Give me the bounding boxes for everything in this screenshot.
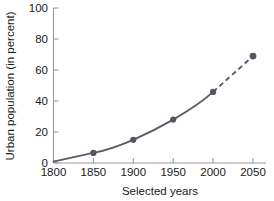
x-tick-label-2050: 2050 [240,166,266,178]
x-axis-title: Selected years [122,185,198,197]
x-tick-label-1900: 1900 [121,166,147,178]
x-tick-label-1850: 1850 [81,166,107,178]
data-point-markers [90,53,256,156]
data-point-1900 [130,137,136,143]
y-axis-title: Urban population (in percent) [4,11,16,160]
data-point-2050 [250,53,257,60]
y-tick-label-20: 20 [35,126,48,138]
y-axis-ticks [54,8,59,163]
y-tick-label-40: 40 [35,95,48,107]
series-line-solid [54,92,214,162]
data-point-1950 [170,117,176,123]
y-tick-label-100: 100 [29,2,48,14]
y-tick-label-60: 60 [35,64,48,76]
x-tick-label-1950: 1950 [160,166,186,178]
x-tick-labels: 1800 1850 1900 1950 2000 2050 [41,166,266,178]
x-tick-label-2000: 2000 [200,166,226,178]
data-point-1850 [90,150,96,156]
chart-container: 100 80 60 40 20 0 1800 1850 1900 1950 20… [0,0,274,201]
data-point-2000 [210,89,216,95]
y-tick-label-80: 80 [35,33,48,45]
series-line-dashed [213,56,253,92]
y-tick-labels: 100 80 60 40 20 0 [29,2,48,169]
line-chart: 100 80 60 40 20 0 1800 1850 1900 1950 20… [0,0,274,201]
x-tick-label-1800: 1800 [41,166,67,178]
x-axis-ticks [54,158,254,163]
